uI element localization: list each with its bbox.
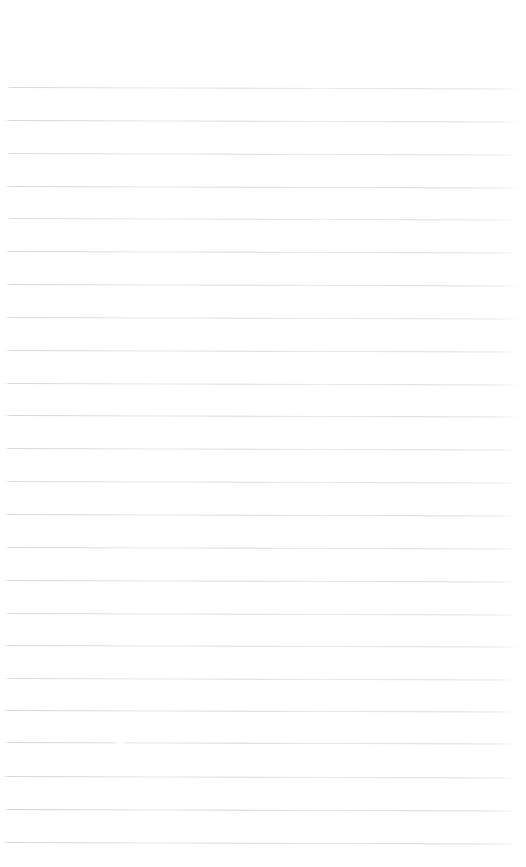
ruled-line (4, 742, 519, 744)
ruled-line (4, 186, 520, 188)
ruled-line (3, 710, 518, 712)
ruled-line (3, 645, 519, 647)
ruled-line (4, 678, 519, 680)
ruled-line (5, 481, 520, 483)
ruled-line (5, 284, 520, 286)
ruled-line (4, 251, 520, 253)
ruled-lines-layer (0, 0, 526, 867)
ruled-line (6, 87, 521, 89)
ruled-line (6, 153, 520, 155)
ruled-line (4, 809, 518, 811)
ruled-line-break (116, 741, 124, 744)
ruled-line (3, 776, 519, 778)
ruled-line (5, 218, 519, 220)
scanned-page (0, 0, 526, 867)
ruled-line (4, 514, 519, 516)
ruled-line (5, 350, 520, 352)
ruled-line (4, 383, 520, 385)
ruled-line (3, 842, 519, 844)
ruled-line (4, 317, 519, 319)
ruled-line (5, 120, 521, 122)
ruled-line (4, 613, 518, 615)
ruled-line (4, 547, 519, 549)
ruled-line (5, 415, 519, 417)
ruled-line (3, 580, 519, 582)
ruled-line (4, 448, 520, 450)
